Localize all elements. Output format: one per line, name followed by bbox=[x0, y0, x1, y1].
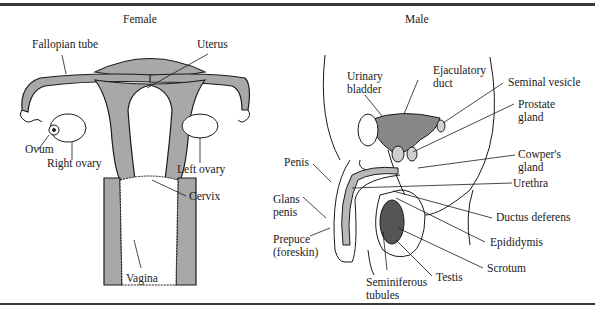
label-glans-penis: Glans penis bbox=[273, 193, 300, 218]
label-ejaculatory-duct: Ejaculatory duct bbox=[433, 64, 486, 89]
label-testis: Testis bbox=[436, 271, 463, 284]
label-seminal-vesicle: Seminal vesicle bbox=[508, 76, 581, 89]
label-prostate-gland: Prostate gland bbox=[518, 98, 555, 123]
male-title: Male bbox=[405, 13, 429, 25]
female-title: Female bbox=[123, 13, 157, 25]
label-ovum: Ovum bbox=[25, 143, 54, 156]
label-urinary-bladder: Urinary bladder bbox=[347, 70, 383, 95]
label-seminiferous-tubules: Seminiferous tubules bbox=[366, 276, 427, 301]
label-cowpers-gland: Cowper's gland bbox=[518, 148, 561, 173]
label-vagina: Vagina bbox=[126, 272, 158, 285]
label-right-ovary: Right ovary bbox=[47, 157, 102, 170]
label-penis: Penis bbox=[284, 156, 309, 169]
label-uterus: Uterus bbox=[197, 38, 228, 51]
label-ductus-deferens: Ductus deferens bbox=[496, 211, 570, 224]
label-fallopian-tube: Fallopian tube bbox=[32, 38, 98, 51]
label-scrotum: Scrotum bbox=[487, 262, 526, 275]
label-cervix: Cervix bbox=[189, 190, 220, 203]
label-prepuce: Prepuce (foreskin) bbox=[273, 233, 318, 258]
label-left-ovary: Left ovary bbox=[177, 163, 225, 176]
label-urethra: Urethra bbox=[513, 177, 548, 190]
label-epididymis: Epididymis bbox=[490, 236, 543, 249]
